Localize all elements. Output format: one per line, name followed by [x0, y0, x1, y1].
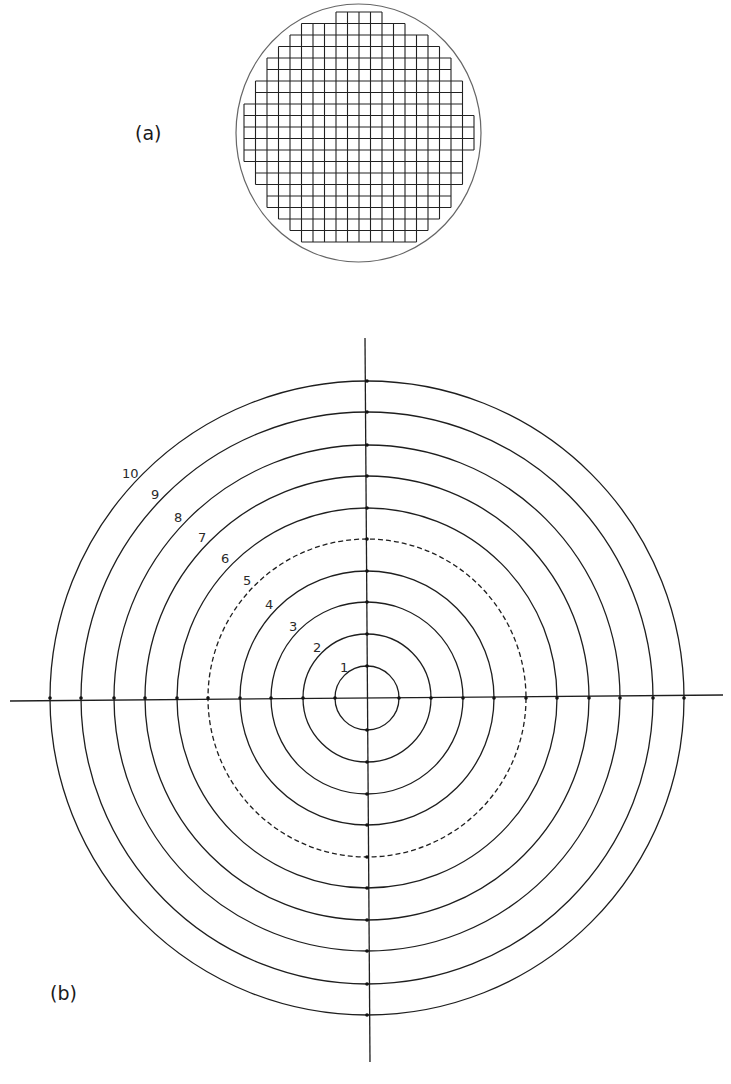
ring-label-6: 6 — [221, 551, 229, 566]
intersection-dot — [79, 696, 83, 700]
intersection-dot — [365, 728, 369, 732]
intersection-dot — [269, 696, 273, 700]
intersection-dot — [682, 696, 686, 700]
ring-label-5: 5 — [243, 573, 251, 588]
intersection-dot — [365, 443, 369, 447]
intersection-dot — [333, 696, 337, 700]
intersection-dot — [555, 696, 559, 700]
ring-label-8: 8 — [174, 510, 182, 525]
intersection-dot — [365, 410, 369, 414]
intersection-dot — [365, 918, 369, 922]
intersection-dot — [492, 696, 496, 700]
intersection-dot — [587, 696, 591, 700]
intersection-dot — [365, 474, 369, 478]
intersection-dot — [365, 886, 369, 890]
intersection-dot — [618, 696, 622, 700]
intersection-dot — [112, 696, 116, 700]
reticle-figure: (a) 12345678910 (b) — [0, 0, 731, 1084]
panel-a-label: (a) — [135, 122, 161, 144]
ring-label-9: 9 — [151, 487, 159, 502]
intersection-dot — [461, 696, 465, 700]
panel-b-ring-reticle: 12345678910 (b) — [10, 338, 723, 1062]
ring-label-7: 7 — [198, 530, 206, 545]
intersection-dot — [365, 506, 369, 510]
intersection-dot — [175, 696, 179, 700]
intersection-dot — [365, 1013, 369, 1017]
intersection-dot — [301, 696, 305, 700]
intersection-dot — [365, 949, 369, 953]
ring-label-2: 2 — [313, 640, 321, 655]
panel-a-grid-reticle: (a) — [135, 4, 481, 262]
intersection-dot — [365, 855, 369, 859]
intersection-dot — [365, 537, 369, 541]
intersection-dot — [365, 569, 369, 573]
intersection-dot — [365, 632, 369, 636]
intersection-dot — [365, 600, 369, 604]
square-grid — [244, 12, 474, 242]
intersection-dot — [429, 696, 433, 700]
intersection-dot — [397, 696, 401, 700]
intersection-dot — [238, 696, 242, 700]
intersection-dot — [365, 760, 369, 764]
panel-b-label: (b) — [50, 982, 77, 1004]
ring-label-1: 1 — [340, 660, 348, 675]
intersection-dot — [524, 696, 528, 700]
intersection-dot — [365, 982, 369, 986]
horizontal-crosshair — [10, 695, 723, 701]
intersection-dot — [365, 792, 369, 796]
intersection-dot — [651, 696, 655, 700]
intersection-dot — [206, 696, 210, 700]
ring-label-3: 3 — [289, 619, 297, 634]
ring-label-4: 4 — [265, 597, 273, 612]
ring-number-labels: 12345678910 — [122, 466, 348, 675]
intersection-dot — [143, 696, 147, 700]
intersection-dot — [48, 696, 52, 700]
intersection-dot — [365, 379, 369, 383]
intersection-dot — [365, 664, 369, 668]
intersection-dot — [365, 823, 369, 827]
ring-label-10: 10 — [122, 466, 139, 481]
